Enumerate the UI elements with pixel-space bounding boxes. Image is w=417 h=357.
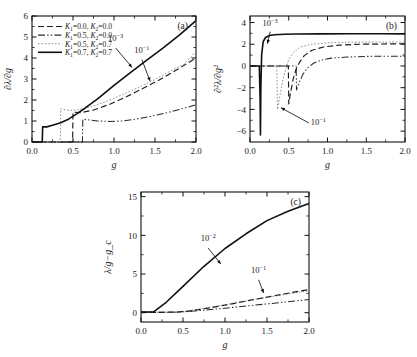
series-line: [250, 34, 405, 135]
x-tick-label: 1.5: [149, 146, 161, 156]
y-tick-label: 6: [24, 11, 29, 21]
x-tick-label: 0.0: [26, 146, 38, 156]
y-axis-label: ∂²λ/∂g²: [212, 64, 223, 93]
y-tick-label: 5: [133, 269, 138, 279]
x-tick-label: 0.0: [135, 326, 147, 336]
annotation-label: 10−1: [134, 44, 149, 55]
y-tick-label: 1: [24, 116, 29, 126]
panel-a: 0.00.51.01.52.00123456(a)g∂λ/∂g10−310−1K…: [0, 2, 208, 174]
y-tick-label: 4: [24, 53, 29, 63]
panel-c-plot: 0.00.51.01.52.0051015(c)gλ/g−g_c10−210−1: [97, 176, 322, 357]
x-tick-label: 0.5: [283, 146, 295, 156]
panel-label: (a): [177, 21, 188, 32]
x-tick-label: 1.0: [219, 326, 231, 336]
series-line: [141, 290, 309, 313]
y-tick-label: −2: [236, 83, 246, 93]
annotation-arrowhead: [267, 40, 270, 44]
y-tick-label: 0: [24, 137, 29, 147]
annotation-leader: [281, 108, 309, 123]
y-tick-label: 2: [242, 39, 247, 49]
y-tick-label: 2: [24, 95, 29, 105]
x-tick-label: 2.0: [303, 326, 315, 336]
y-tick-label: 0: [133, 308, 138, 318]
x-axis-label: g: [325, 159, 330, 170]
x-axis-label: g: [223, 339, 228, 350]
y-tick-label: 15: [128, 192, 138, 202]
x-tick-label: 2.0: [399, 146, 411, 156]
annotation-label: 10−1: [251, 264, 266, 275]
x-tick-label: 0.5: [67, 146, 79, 156]
y-tick-label: 0: [242, 61, 247, 71]
y-tick-label: −4: [236, 105, 246, 115]
y-axis-label: λ/g−g_c: [102, 240, 113, 275]
y-tick-label: 3: [24, 74, 29, 84]
x-tick-label: 1.0: [322, 146, 334, 156]
x-tick-label: 1.5: [361, 146, 373, 156]
panel-b: 0.00.51.01.52.0420−2−4−6(b)g∂²λ/∂g²10−31…: [208, 2, 417, 174]
annotation-label: 10−2: [201, 232, 216, 243]
annotation-label: 10−3: [263, 17, 278, 28]
legend-label: K1=0.7, K2=0.7: [64, 48, 112, 58]
series-line: [250, 44, 405, 104]
series-line: [250, 42, 405, 109]
panel-b-plot: 0.00.51.01.52.0420−2−4−6(b)g∂²λ/∂g²10−31…: [208, 2, 417, 174]
y-tick-label: 4: [242, 18, 247, 28]
annotation-arrowhead: [261, 289, 264, 293]
panel-c: 0.00.51.01.52.0051015(c)gλ/g−g_c10−210−1: [97, 176, 322, 357]
x-axis-label: g: [112, 159, 117, 170]
panel-label: (b): [386, 21, 397, 32]
x-tick-label: 0.0: [244, 146, 256, 156]
series-line: [32, 52, 196, 142]
y-axis-label: ∂λ/∂g: [2, 68, 13, 90]
x-tick-label: 0.5: [177, 326, 189, 336]
x-tick-label: 1.0: [108, 146, 120, 156]
x-tick-label: 1.5: [261, 326, 273, 336]
y-tick-label: −6: [236, 126, 246, 136]
series-line: [250, 56, 405, 90]
y-tick-label: 5: [24, 32, 29, 42]
series-line: [141, 204, 309, 312]
y-tick-label: 10: [128, 231, 138, 241]
annotation-label: 10−1: [311, 116, 326, 127]
annotation-arrowhead: [147, 77, 150, 81]
panel-label: (c): [290, 197, 301, 208]
x-tick-label: 2.0: [190, 146, 202, 156]
panel-a-plot: 0.00.51.01.52.00123456(a)g∂λ/∂g10−310−1K…: [0, 2, 208, 174]
